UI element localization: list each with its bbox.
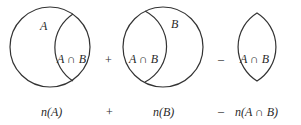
label-a-cap-b-fig2: A ∩ B	[129, 53, 158, 65]
figure-set-b	[123, 7, 203, 87]
circle-b	[123, 7, 203, 87]
intersection-arc-a	[55, 14, 73, 81]
figure-intersection	[238, 13, 276, 81]
intersection-arc-b	[145, 11, 167, 82]
figure-set-a	[10, 7, 90, 87]
circle-a	[10, 7, 90, 87]
caption-n-a-cap-b: n(A ∩ B)	[235, 106, 278, 118]
plus-operator-bottom: +	[106, 106, 113, 118]
label-a-cap-b-fig3: A ∩ B	[240, 53, 269, 65]
minus-operator-top: –	[218, 53, 224, 65]
minus-operator-bottom: –	[218, 105, 224, 117]
caption-n-a: n(A)	[41, 106, 62, 118]
label-a-cap-b-fig1: A ∩ B	[57, 53, 86, 65]
caption-n-b: n(B)	[153, 106, 174, 118]
lens-shape	[238, 13, 276, 81]
plus-operator-top: +	[105, 54, 112, 66]
label-b: B	[171, 18, 178, 30]
label-a: A	[40, 20, 47, 32]
